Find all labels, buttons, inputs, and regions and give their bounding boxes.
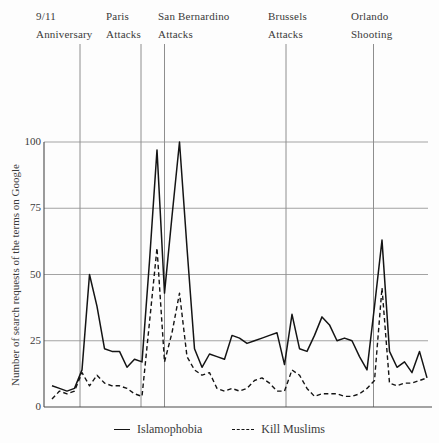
series-line-kill-muslims (52, 248, 427, 399)
event-label-4: Orlando Shooting (351, 7, 392, 43)
solid-line-swatch-icon (114, 429, 130, 430)
event-label-0: 9/11 Anniversary (36, 7, 93, 43)
y-axis-title: Number of search requests of the terms o… (9, 125, 23, 425)
dashed-line-swatch-icon (232, 429, 254, 430)
series-line-islamophobia (52, 142, 427, 391)
chart-canvas (0, 0, 439, 443)
event-label-1: Paris Attacks (106, 7, 141, 43)
legend-item-islamophobia: Islamophobia (114, 422, 202, 437)
legend-item-kill-muslims: Kill Muslims (232, 422, 325, 437)
legend-label-kill-muslims: Kill Muslims (261, 422, 325, 437)
event-label-2: San Bernardino Attacks (158, 7, 230, 43)
line-chart-figure: 9/11 AnniversaryParis AttacksSan Bernard… (0, 0, 439, 443)
legend-label-islamophobia: Islamophobia (137, 422, 202, 437)
event-label-3: Brussels Attacks (268, 7, 307, 43)
legend: Islamophobia Kill Muslims (0, 419, 439, 439)
